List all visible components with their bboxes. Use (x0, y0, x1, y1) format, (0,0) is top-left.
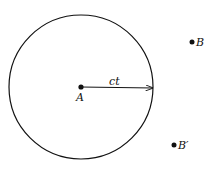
point-b-dot (190, 40, 195, 45)
point-b-prime-dot (172, 143, 177, 148)
point-a-label: A (75, 91, 84, 104)
light-cone-diagram: ct A B B′ (0, 0, 207, 184)
point-b-label: B (195, 36, 204, 49)
radius-label: ct (109, 75, 120, 88)
point-a-dot (78, 84, 83, 89)
point-b-prime-label: B′ (177, 139, 189, 152)
